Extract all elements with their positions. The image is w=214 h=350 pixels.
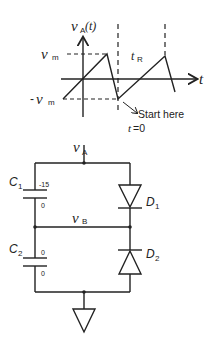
period-label: t xyxy=(131,49,135,63)
mid-node-label: v xyxy=(72,210,79,226)
circuit-schematic xyxy=(23,145,142,332)
c1-label: C xyxy=(9,175,18,189)
d1-diode-icon xyxy=(119,185,141,207)
mid-node-sub: B xyxy=(82,217,87,226)
c1-top-value: -15 xyxy=(39,181,49,188)
period-sub: R xyxy=(137,55,143,64)
d2-label: D xyxy=(146,247,155,261)
input-node-sub: A xyxy=(82,148,88,157)
d1-label: D xyxy=(146,195,155,209)
d1-sub: 1 xyxy=(155,202,160,211)
x-axis-label: t xyxy=(199,71,204,87)
input-node-label: v xyxy=(73,139,80,155)
c1-bottom-value: 0 xyxy=(41,202,45,209)
c1-sub: 1 xyxy=(18,182,23,191)
y-axis-label: v xyxy=(71,18,78,34)
d2-sub: 2 xyxy=(155,254,160,263)
c2-sub: 2 xyxy=(18,249,23,258)
ground-icon xyxy=(73,309,95,332)
sawtooth-waveform xyxy=(63,54,175,99)
vm-pos-sub: m xyxy=(52,53,59,62)
t0-value: =0 xyxy=(133,122,145,134)
t0-label: t xyxy=(128,122,132,134)
start-here-arrow xyxy=(123,102,137,113)
d2-diode-icon xyxy=(119,251,141,274)
vm-neg-sub: m xyxy=(48,98,55,107)
c2-top-value: 0 xyxy=(41,249,45,256)
c2-bottom-value: 0 xyxy=(41,270,45,277)
vm-pos-label: v xyxy=(41,46,48,62)
diagram-canvas: v A (t) t v m - v m t R Start here t =0 xyxy=(0,0,214,350)
waveform-graph: v A (t) t v m - v m t R Start here t =0 xyxy=(30,18,204,134)
vm-neg-prefix: - xyxy=(30,92,34,106)
c2-label: C xyxy=(9,242,18,256)
start-here-annotation: Start here xyxy=(138,108,184,120)
vm-neg-label: v xyxy=(36,91,43,107)
y-axis-label-arg: (t) xyxy=(85,19,96,33)
